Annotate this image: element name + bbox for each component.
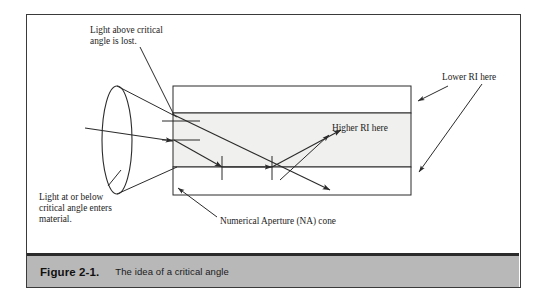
figure-caption-bar: Figure 2-1. The idea of a critical angle [27, 253, 519, 287]
figure-container: Light above critical angle is lost. Ligh… [0, 0, 551, 301]
figure-caption-text: The idea of a critical angle [115, 266, 229, 277]
figure-frame-border [26, 14, 521, 288]
figure-caption-number: Figure 2-1. [40, 266, 99, 278]
